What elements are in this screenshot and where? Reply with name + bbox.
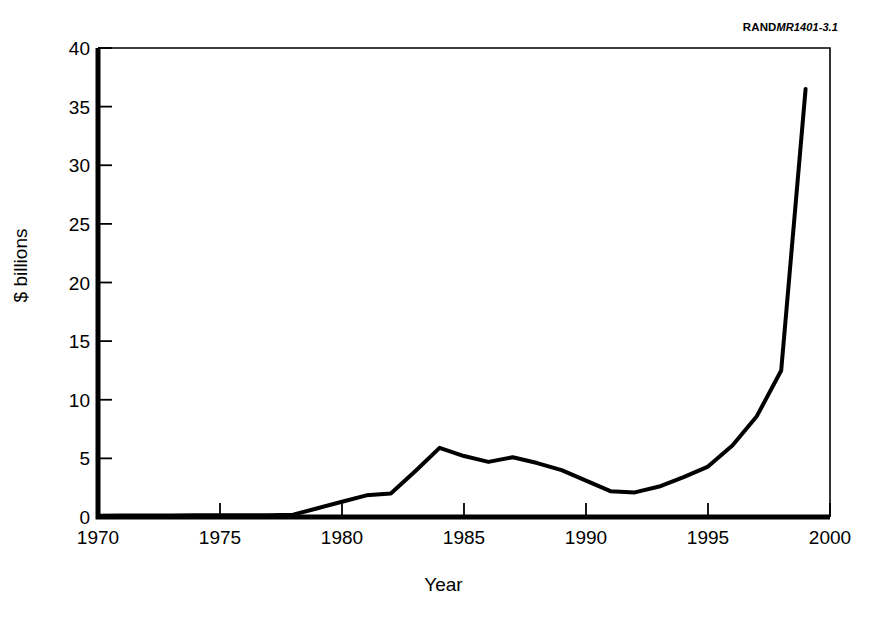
line-chart-plot	[0, 0, 887, 617]
data-line-series	[98, 89, 806, 516]
x-tick-label: 1995	[668, 528, 748, 547]
y-tick-label: 30	[50, 156, 90, 175]
y-tick-label: 0	[50, 508, 90, 527]
y-tick-label: 25	[50, 215, 90, 234]
y-tick-label: 35	[50, 98, 90, 117]
y-tick-label: 5	[50, 449, 90, 468]
x-tick-label: 2000	[790, 528, 870, 547]
figure: RANDMR1401-3.1 0510152025303540 19701975…	[0, 0, 887, 617]
x-axis-title: Year	[0, 575, 887, 594]
y-tick-label: 10	[50, 391, 90, 410]
y-axis-tick-labels: 0510152025303540	[46, 0, 90, 617]
x-tick-label: 1980	[302, 528, 382, 547]
y-axis-title: $ billions	[11, 186, 30, 346]
x-tick-label: 1975	[180, 528, 260, 547]
axis-frame	[98, 48, 830, 517]
x-tick-label: 1970	[58, 528, 138, 547]
x-tick-label: 1990	[546, 528, 626, 547]
x-axis-tick-labels: 1970197519801985199019952000	[0, 528, 887, 558]
y-tick-label: 20	[50, 274, 90, 293]
x-tick-label: 1985	[424, 528, 504, 547]
y-tick-label: 15	[50, 332, 90, 351]
y-tick-label: 40	[50, 39, 90, 58]
